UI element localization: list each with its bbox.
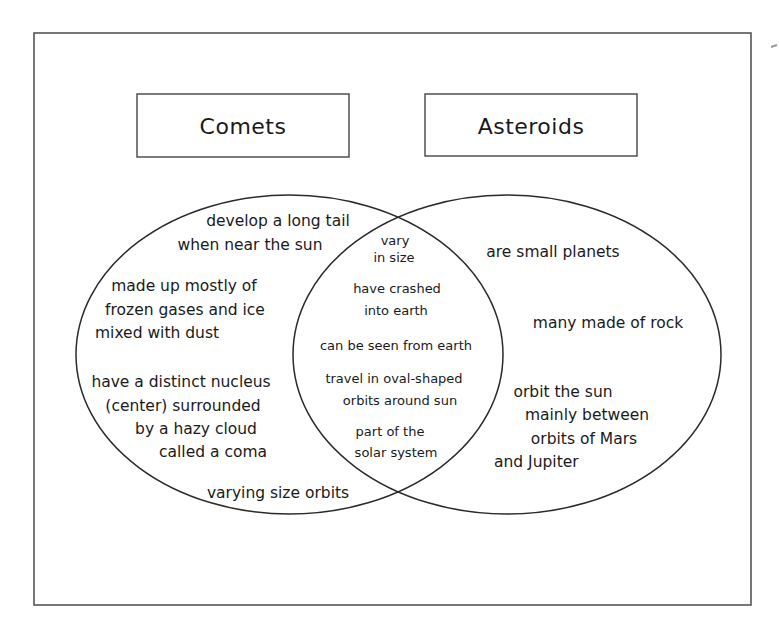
text-line: are small planets (486, 243, 619, 261)
text-line: when near the sun (177, 236, 322, 254)
venn-diagram-worksheet: Comets Asteroids develop a long tail whe… (0, 0, 779, 634)
text-line: orbits of Mars (531, 430, 637, 448)
asteroids-item-small-planets: are small planets (486, 243, 619, 261)
text-line: orbits around sun (343, 393, 457, 408)
text-line: can be seen from earth (320, 338, 472, 353)
text-line: mainly between (525, 406, 649, 424)
asteroids-item-made-of-rock: many made of rock (533, 314, 683, 332)
text-line: orbit the sun (513, 383, 612, 401)
text-line: vary (381, 233, 410, 248)
text-line: (center) surrounded (105, 397, 260, 415)
comets-title-box: Comets (137, 94, 349, 157)
asteroids-title: Asteroids (478, 114, 585, 139)
stray-mark (771, 45, 777, 47)
text-line: travel in oval-shaped (325, 371, 462, 386)
asteroids-title-box: Asteroids (425, 94, 637, 156)
text-line: by a hazy cloud (135, 420, 257, 438)
text-line: frozen gases and ice (105, 301, 265, 319)
text-line: have a distinct nucleus (91, 373, 270, 391)
text-line: and Jupiter (494, 453, 579, 471)
text-line: mixed with dust (95, 324, 219, 342)
text-line: into earth (364, 303, 428, 318)
comets-title: Comets (200, 114, 287, 139)
text-line: many made of rock (533, 314, 683, 332)
text-line: have crashed (353, 281, 441, 296)
text-line: made up mostly of (111, 277, 257, 295)
text-line: in size (373, 250, 414, 265)
text-line: develop a long tail (206, 212, 350, 230)
text-line: solar system (355, 445, 438, 460)
text-line: part of the (356, 424, 425, 439)
shared-item-seen-from-earth: can be seen from earth (320, 338, 472, 353)
comets-item-varying-orbits: varying size orbits (207, 484, 349, 502)
text-line: called a coma (159, 443, 267, 461)
text-line: varying size orbits (207, 484, 349, 502)
